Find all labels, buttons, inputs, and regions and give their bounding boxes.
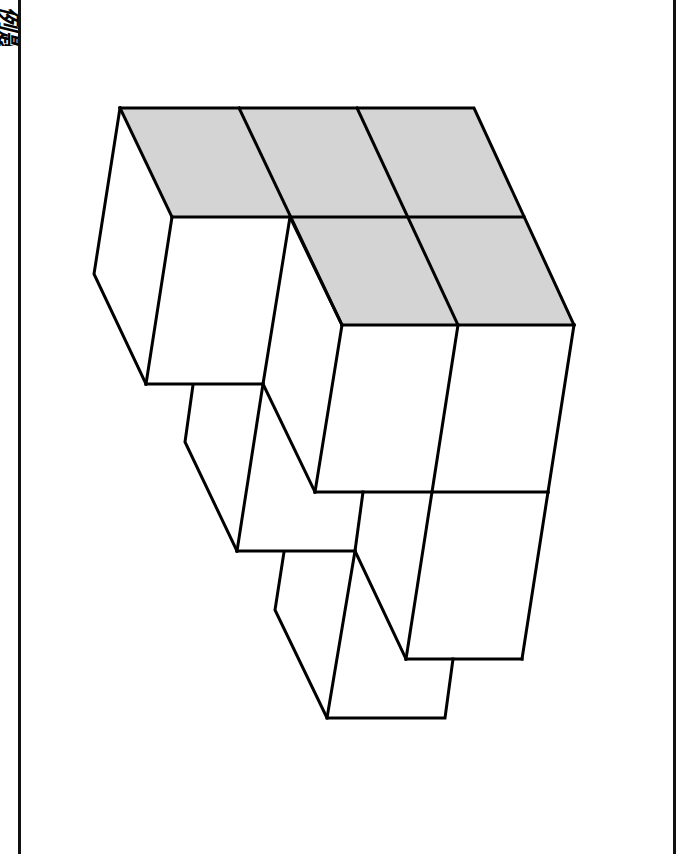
worksheet-page: 例题 — [0, 0, 676, 854]
cube-stack-figure — [0, 0, 676, 854]
